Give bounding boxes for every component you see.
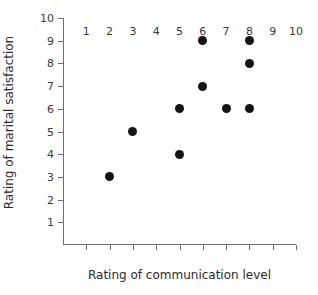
x-tick-label: 7 [223,25,230,38]
y-tick-label: 2 [47,193,54,206]
y-tick-mark [58,63,63,64]
y-tick-mark [58,109,63,110]
y-tick-label: 9 [47,34,54,47]
x-tick-mark [156,245,157,250]
scatter-plot-figure: 12345678910 12345678910 Rating of commun… [0,0,318,295]
x-tick-mark [110,245,111,250]
x-tick-label: 4 [153,25,160,38]
y-tick-mark [58,222,63,223]
y-tick-label: 1 [47,216,54,229]
y-tick-label: 8 [47,57,54,70]
y-axis-line [63,18,64,245]
data-point [198,82,207,91]
x-tick-label: 9 [269,25,276,38]
data-point [245,104,254,113]
data-point [175,104,184,113]
y-tick-label: 5 [47,125,54,138]
x-tick-label: 3 [129,25,136,38]
y-tick-label: 10 [40,12,54,25]
x-tick-label: 1 [83,25,90,38]
y-axis-title-text: Rating of marital satisfaction [0,0,18,245]
y-tick-label: 6 [47,102,54,115]
data-point [128,127,137,136]
y-tick-label: 4 [47,148,54,161]
x-tick-mark [226,245,227,250]
x-tick-mark [86,245,87,250]
y-tick-mark [58,18,63,19]
y-tick-mark [58,177,63,178]
y-tick-mark [58,86,63,87]
x-axis-title: Rating of communication level [63,268,296,282]
x-tick-mark [296,245,297,250]
data-point [222,104,231,113]
x-tick-label: 10 [289,25,303,38]
data-point [198,36,207,45]
x-tick-mark [203,245,204,250]
x-tick-mark [180,245,181,250]
data-point [245,36,254,45]
data-point [105,172,114,181]
y-tick-label: 3 [47,170,54,183]
data-point [245,59,254,68]
y-tick-mark [58,154,63,155]
x-tick-mark [249,245,250,250]
x-tick-mark [133,245,134,250]
y-axis-title: Rating of marital satisfaction [0,0,18,245]
y-tick-mark [58,41,63,42]
y-tick-label: 7 [47,80,54,93]
x-tick-label: 2 [106,25,113,38]
plot-area: 12345678910 12345678910 [63,18,296,245]
y-tick-mark [58,200,63,201]
y-tick-mark [58,132,63,133]
data-point [175,150,184,159]
x-tick-label: 5 [176,25,183,38]
x-tick-mark [273,245,274,250]
